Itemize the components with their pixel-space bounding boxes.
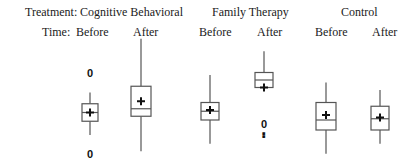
time-label-ft-before: Before xyxy=(199,25,232,39)
outlier-marker: ▪ xyxy=(262,130,266,142)
treatment-label-family-therapy: Family Therapy xyxy=(212,5,289,19)
boxplot-cognitive-behavioral-before: 00 xyxy=(82,67,98,160)
boxplot-family-therapy-before xyxy=(201,75,219,144)
time-row-label: Time: xyxy=(42,25,70,39)
time-label-ft-after: After xyxy=(257,25,282,39)
treatment-label-control: Control xyxy=(341,5,378,19)
outlier-marker: 0 xyxy=(87,67,93,79)
box-group: 000▪▪ xyxy=(82,39,389,160)
time-label-ctrl-after: After xyxy=(372,25,397,39)
time-label-cb-after: After xyxy=(133,25,158,39)
outlier-marker: 0 xyxy=(87,148,93,160)
boxplot-control-after xyxy=(371,90,389,144)
box-plot-chart: Treatment: Cognitive Behavioral Family T… xyxy=(0,0,414,166)
boxplot-cognitive-behavioral-after xyxy=(131,39,151,152)
boxplot-family-therapy-after: 0▪▪ xyxy=(255,51,273,142)
time-label-ctrl-before: Before xyxy=(315,25,348,39)
treatment-row-label: Treatment: xyxy=(25,5,77,19)
treatment-label-cognitive-behavioral: Cognitive Behavioral xyxy=(80,5,184,19)
boxplot-control-before xyxy=(316,83,336,154)
time-label-cb-before: Before xyxy=(76,25,109,39)
